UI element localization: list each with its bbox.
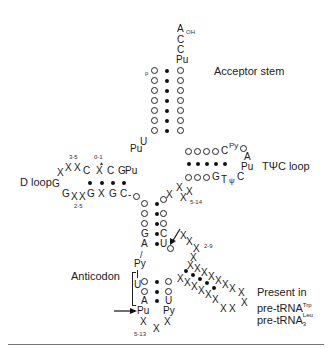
nucleotide-x: X bbox=[201, 268, 208, 278]
tpsic-loop-label: TΨC loop bbox=[262, 160, 310, 172]
nucleotide-circle bbox=[151, 107, 158, 114]
nucleotide-circle bbox=[160, 210, 167, 217]
nucleotide-a: A bbox=[141, 239, 148, 249]
connector-dash: - bbox=[128, 190, 131, 200]
base-pair-dot bbox=[155, 232, 159, 236]
nucleotide-circle bbox=[151, 67, 158, 74]
nucleotide-circle bbox=[203, 148, 210, 155]
nucleotide-x: X bbox=[212, 295, 219, 305]
nucleotide-py: Py bbox=[163, 306, 175, 316]
base-pair-dot bbox=[187, 162, 191, 166]
nucleotide-c: C bbox=[120, 189, 127, 199]
nucleotide-circle bbox=[203, 174, 210, 181]
nucleotide-x: X bbox=[98, 189, 105, 199]
range-label: 2-9 bbox=[204, 243, 213, 249]
nucleotide-g: G bbox=[109, 189, 117, 199]
nucleotide-circle bbox=[177, 127, 184, 134]
nucleotide-circle bbox=[185, 148, 192, 155]
present-in-label: Present in bbox=[257, 286, 307, 298]
bottom-rule bbox=[8, 344, 324, 345]
nucleotide-x: X bbox=[186, 237, 193, 247]
nucleotide-x: X bbox=[74, 163, 81, 173]
base-pair-dot bbox=[122, 181, 126, 185]
base-pair-dot bbox=[214, 162, 218, 166]
nucleotide-pu: Pu bbox=[176, 55, 188, 65]
nucleotide-circle bbox=[151, 127, 158, 134]
nucleotide-circle bbox=[165, 278, 172, 285]
base-pair-dot bbox=[155, 242, 159, 246]
nucleotide-g: G bbox=[62, 189, 70, 199]
nucleotide-x: X bbox=[194, 264, 201, 274]
phosphate-label: p bbox=[145, 70, 148, 76]
nucleotide-circle bbox=[151, 97, 158, 104]
nucleotide-x: X bbox=[215, 276, 222, 286]
oh-label: OH bbox=[186, 29, 195, 35]
nucleotide-circle bbox=[165, 288, 172, 295]
nucleotide-g: G bbox=[212, 172, 220, 182]
base-pair-dot bbox=[212, 286, 216, 290]
nucleotide-x: X bbox=[184, 278, 191, 288]
nucleotide-c: C bbox=[107, 166, 114, 176]
nucleotide-x: X bbox=[180, 193, 187, 203]
nucleotide-circle bbox=[185, 174, 192, 181]
base-pair-dot bbox=[155, 202, 159, 206]
nucleotide-x: X bbox=[186, 187, 193, 197]
base-pair-dot bbox=[165, 119, 169, 123]
nucleotide-circle bbox=[133, 193, 140, 200]
cleavage-arrow-icon bbox=[114, 307, 138, 315]
nucleotide-x: X bbox=[229, 304, 236, 314]
range-label: 5-14 bbox=[190, 199, 202, 205]
nucleotide-pu: Pu bbox=[137, 306, 149, 316]
nucleotide-py: Py bbox=[229, 143, 238, 149]
nucleotide-g: G bbox=[87, 189, 95, 199]
nucleotide-circle bbox=[177, 67, 184, 74]
nucleotide-pu: Pu bbox=[130, 144, 142, 154]
nucleotide-x: X bbox=[96, 166, 103, 176]
base-pair-dot bbox=[111, 181, 115, 185]
nucleotide-x: X bbox=[140, 317, 147, 327]
nucleotide-circle bbox=[177, 117, 184, 124]
pre-trna-text: pre-tRNA bbox=[257, 314, 303, 326]
nucleotide-x: X bbox=[164, 317, 171, 327]
anticodon-bracket-bottom bbox=[132, 305, 136, 306]
nucleotide-circle bbox=[151, 117, 158, 124]
base-pair-dot bbox=[205, 162, 209, 166]
pre-trna-leu-label: pre-tRNALeu3 bbox=[257, 312, 315, 326]
nucleotide-psi: ψ bbox=[229, 176, 235, 186]
nucleotide-x: X bbox=[65, 163, 72, 173]
base-pair-dot bbox=[165, 89, 169, 93]
nucleotide-t: T bbox=[221, 175, 227, 185]
nucleotide-pu: Pu bbox=[125, 166, 137, 176]
nucleotide-circle bbox=[177, 87, 184, 94]
nucleotide-circle bbox=[141, 220, 148, 227]
base-pair-dot bbox=[165, 79, 169, 83]
acceptor-stem-label: Acceptor stem bbox=[214, 65, 284, 77]
base-pair-dot bbox=[165, 129, 169, 133]
nucleotide-x: X bbox=[71, 192, 78, 202]
nucleotide-x: X bbox=[166, 190, 173, 200]
base-pair-dot bbox=[100, 181, 104, 185]
anticodon-bracket-top bbox=[132, 272, 136, 273]
base-pair-dot bbox=[191, 273, 195, 277]
nucleotide-x: X bbox=[57, 168, 64, 178]
base-pair-dot bbox=[155, 280, 159, 284]
nucleotide-x: X bbox=[205, 290, 212, 300]
nucleotide-circle bbox=[177, 107, 184, 114]
nucleotide-circle bbox=[194, 174, 201, 181]
nucleotide-circle bbox=[151, 77, 158, 84]
nucleotide-x: X bbox=[191, 282, 198, 292]
nucleotide-c: C bbox=[83, 166, 90, 176]
nucleotide-c: C bbox=[237, 172, 244, 182]
base-pair-dot bbox=[155, 222, 159, 226]
nucleotide-g: G bbox=[52, 179, 60, 189]
nucleotide-x: X bbox=[241, 298, 248, 308]
base-pair-dot bbox=[223, 162, 227, 166]
base-pair-dot bbox=[165, 99, 169, 103]
connector-line bbox=[137, 270, 138, 278]
nucleotide-circle bbox=[194, 148, 201, 155]
nucleotide-circle bbox=[177, 97, 184, 104]
nucleotide-x: X bbox=[153, 324, 160, 334]
nucleotide-x: X bbox=[208, 272, 215, 282]
base-pair-dot bbox=[88, 181, 92, 185]
leu-subscript: 3 bbox=[303, 318, 306, 330]
